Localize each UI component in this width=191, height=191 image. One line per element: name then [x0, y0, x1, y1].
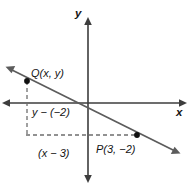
figure-canvas [0, 0, 191, 191]
run-leg-label: (x − 3) [38, 148, 69, 159]
x-axis-label: x [176, 107, 182, 119]
x-axis-left-arrow-icon [2, 99, 10, 107]
point-q-marker [24, 78, 30, 84]
y-axis-down-arrow-icon [84, 175, 92, 183]
graph-line-upper-left-arrow-icon [6, 66, 16, 73]
point-p-label: P(3, −2) [96, 144, 135, 155]
coordinate-plane-figure: y x Q(x, y) P(3, −2) y − (−2) (x − 3) [0, 0, 191, 191]
point-p-marker [134, 132, 140, 138]
rise-leg-label: y − (−2) [32, 107, 70, 118]
point-q-label: Q(x, y) [31, 68, 64, 79]
y-axis-label: y [75, 8, 81, 20]
y-axis-up-arrow-icon [84, 17, 92, 25]
